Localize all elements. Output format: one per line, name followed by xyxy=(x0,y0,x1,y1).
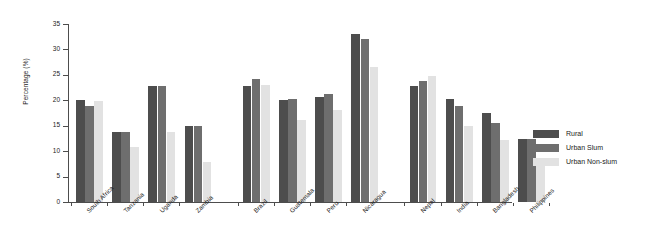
bar xyxy=(288,99,297,202)
bar xyxy=(428,76,437,202)
bar xyxy=(194,126,203,202)
x-tick-mark xyxy=(71,203,72,206)
bar xyxy=(370,67,379,202)
y-tick-label: 5 xyxy=(38,173,60,180)
legend-item[interactable]: Rural xyxy=(533,130,658,139)
bar xyxy=(419,81,428,202)
x-tick-mark xyxy=(107,203,108,206)
bar xyxy=(121,132,130,202)
x-tick-mark xyxy=(441,203,442,206)
bar xyxy=(94,101,103,202)
bar xyxy=(333,110,342,202)
bar xyxy=(446,99,455,202)
bar xyxy=(361,39,370,202)
x-tick-mark xyxy=(179,203,180,206)
x-tick-mark xyxy=(549,203,550,206)
legend-item[interactable]: Urban Non-slum xyxy=(533,158,658,167)
y-tick-label: 25 xyxy=(38,71,60,78)
x-tick-mark xyxy=(238,203,239,206)
bar-chart: Percentage (%) 05101520253035 South Afri… xyxy=(0,0,665,252)
x-tick-mark xyxy=(404,203,405,206)
bar xyxy=(482,113,491,202)
legend-label: Urban Slum xyxy=(566,144,603,152)
bar xyxy=(455,106,464,202)
x-tick-mark xyxy=(477,203,478,206)
bar xyxy=(158,86,167,202)
bar xyxy=(252,79,261,202)
bar xyxy=(518,139,527,202)
bar xyxy=(112,132,121,202)
legend-swatch xyxy=(533,130,559,138)
chart-legend: RuralUrban SlumUrban Non-slum xyxy=(533,130,658,170)
bar xyxy=(410,86,419,202)
x-tick-mark xyxy=(310,203,311,206)
bar xyxy=(261,85,270,202)
legend-label: Urban Non-slum xyxy=(566,158,617,166)
bar xyxy=(85,106,94,202)
bar xyxy=(185,126,194,202)
x-tick-mark xyxy=(274,203,275,206)
bar xyxy=(279,100,288,202)
bar xyxy=(351,34,360,202)
bar xyxy=(491,123,500,202)
legend-label: Rural xyxy=(566,130,583,138)
y-tick-label: 30 xyxy=(38,46,60,53)
legend-swatch xyxy=(533,144,559,152)
bar xyxy=(464,126,473,202)
y-tick-label: 20 xyxy=(38,97,60,104)
bar xyxy=(315,97,324,202)
y-tick-label: 35 xyxy=(38,21,60,28)
bar xyxy=(148,86,157,202)
y-tick-label: 10 xyxy=(38,148,60,155)
x-tick-mark xyxy=(143,203,144,206)
y-tick-label: 15 xyxy=(38,122,60,129)
bar xyxy=(76,100,85,202)
legend-swatch xyxy=(533,158,559,166)
bar xyxy=(243,86,252,202)
bar xyxy=(324,94,333,202)
x-tick-mark xyxy=(513,203,514,206)
y-axis-title: Percentage (%) xyxy=(22,27,29,137)
legend-item[interactable]: Urban Slum xyxy=(533,144,658,153)
y-tick-label: 0 xyxy=(38,199,60,206)
y-axis-line xyxy=(68,24,69,202)
x-tick-mark xyxy=(346,203,347,206)
bar xyxy=(297,120,306,202)
